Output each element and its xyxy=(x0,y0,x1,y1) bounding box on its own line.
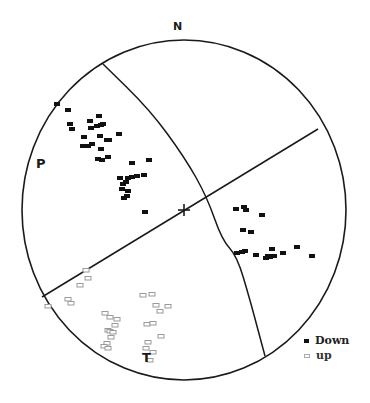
down-point xyxy=(105,155,111,159)
up-point xyxy=(145,341,151,345)
legend-item-up: up xyxy=(304,348,349,363)
down-point xyxy=(119,187,125,191)
up-point xyxy=(85,277,91,281)
down-point xyxy=(117,176,123,180)
down-point xyxy=(269,247,275,251)
legend-item-down: Down xyxy=(304,333,349,348)
down-point xyxy=(248,230,254,234)
up-point xyxy=(165,305,171,309)
down-point xyxy=(233,207,239,211)
up-point xyxy=(83,269,89,273)
up-point xyxy=(105,347,111,351)
down-point xyxy=(280,251,286,255)
legend-label-down: Down xyxy=(315,334,349,347)
down-point xyxy=(259,213,265,217)
down-point xyxy=(69,127,75,131)
down-point xyxy=(85,144,91,148)
down-point xyxy=(271,254,277,258)
down-point xyxy=(87,119,93,123)
legend: Down up xyxy=(304,333,349,363)
down-point xyxy=(120,182,126,186)
up-point xyxy=(68,302,74,306)
down-point xyxy=(97,134,103,138)
down-point xyxy=(88,126,94,130)
down-point xyxy=(242,249,248,253)
down-point xyxy=(65,108,71,112)
down-point xyxy=(142,210,148,214)
up-point xyxy=(65,298,71,302)
down-point xyxy=(243,208,249,212)
down-point xyxy=(100,122,106,126)
stereonet-diagram: N P T Down up xyxy=(0,0,370,403)
down-point xyxy=(309,254,315,258)
down-point xyxy=(129,161,135,165)
down-point xyxy=(125,189,131,193)
up-points xyxy=(45,269,171,363)
down-point xyxy=(99,158,105,162)
down-point xyxy=(81,135,87,139)
down-point xyxy=(141,173,147,177)
down-point xyxy=(98,147,104,151)
legend-label-up: up xyxy=(316,349,332,362)
down-point xyxy=(116,132,122,136)
north-label: N xyxy=(173,21,182,32)
down-points xyxy=(54,102,315,260)
down-point xyxy=(54,102,60,106)
up-point xyxy=(144,323,150,327)
down-point xyxy=(106,138,112,142)
t-axis-label: T xyxy=(142,351,151,364)
open-square-icon xyxy=(304,354,310,358)
down-point xyxy=(294,245,300,249)
up-point xyxy=(102,312,108,316)
filled-square-icon xyxy=(304,339,309,343)
up-point xyxy=(108,336,114,340)
down-point xyxy=(67,122,73,126)
down-point xyxy=(96,114,102,118)
down-point xyxy=(146,158,152,162)
up-point xyxy=(150,322,156,326)
up-point xyxy=(112,324,118,328)
up-point xyxy=(140,294,146,298)
up-point xyxy=(107,316,113,320)
up-point xyxy=(153,304,159,308)
down-point xyxy=(240,228,246,232)
down-point xyxy=(253,253,259,257)
up-point xyxy=(45,305,51,309)
up-point xyxy=(114,318,120,322)
down-point xyxy=(121,196,127,200)
up-point xyxy=(77,284,83,288)
down-point xyxy=(134,174,140,178)
up-point xyxy=(149,293,155,297)
up-point xyxy=(157,310,163,314)
p-axis-label: P xyxy=(36,157,46,170)
up-point xyxy=(158,335,164,339)
up-point xyxy=(110,331,116,335)
center-plus-icon xyxy=(178,204,190,216)
